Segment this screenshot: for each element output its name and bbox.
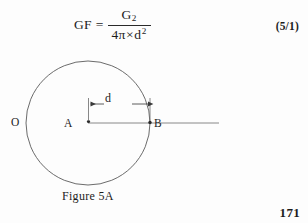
numerator-variable: G xyxy=(121,7,131,22)
numerator-subscript: 2 xyxy=(132,13,137,23)
label-point-a: A xyxy=(64,117,72,129)
multiplication-sign: × xyxy=(125,27,134,42)
point-a-marker xyxy=(87,120,90,123)
equation-number: (5/1) xyxy=(276,20,299,32)
fraction-numerator: G2 xyxy=(114,8,143,25)
denominator-exponent: 2 xyxy=(142,26,147,36)
equation-gf: GF = G2 4π×d2 xyxy=(74,8,151,42)
label-distance-d: d xyxy=(105,91,111,106)
circle-outline xyxy=(26,61,150,185)
figure-caption: Figure 5A xyxy=(62,189,114,204)
page-number: 171 xyxy=(280,205,300,221)
equation-left-hand-side: GF xyxy=(74,17,92,33)
figure-5a: O A B d xyxy=(0,0,308,223)
label-circle-o: O xyxy=(11,116,19,128)
circle-diagram xyxy=(0,0,308,223)
fraction: G2 4π×d2 xyxy=(108,8,151,42)
denominator-variable: d xyxy=(134,27,141,42)
point-b-marker xyxy=(148,121,151,124)
label-point-b: B xyxy=(154,117,162,129)
equals-sign: = xyxy=(96,17,104,33)
fraction-denominator: 4π×d2 xyxy=(108,26,151,42)
document-page: GF = G2 4π×d2 (5/1) xyxy=(0,0,308,223)
